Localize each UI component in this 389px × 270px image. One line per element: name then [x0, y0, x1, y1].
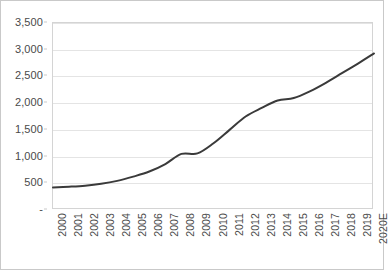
y-tick-label: 2,000 — [15, 96, 43, 108]
x-tick-label: 2003 — [104, 213, 116, 237]
x-tick-label: 2002 — [88, 213, 100, 237]
y-tick-label: 2,500 — [15, 69, 43, 81]
x-tick-label: 2019 — [361, 213, 373, 237]
y-axis: -5001,0001,5002,0002,5003,0003,500 — [1, 22, 47, 209]
y-tick-label: 3,000 — [15, 43, 43, 55]
y-tick-label: 1,000 — [15, 150, 43, 162]
y-tick-mark — [44, 209, 47, 210]
x-tick-label: 2010 — [217, 213, 229, 237]
line-series — [53, 23, 374, 210]
x-tick-label: 2001 — [72, 213, 84, 237]
plot-area — [52, 22, 373, 209]
x-tick-label: 2008 — [184, 213, 196, 237]
y-tick-mark — [44, 102, 47, 103]
x-tick-label: 2004 — [120, 213, 132, 237]
x-tick-label: 2009 — [200, 213, 212, 237]
x-tick-label: 2017 — [329, 213, 341, 237]
y-tick-mark — [44, 182, 47, 183]
x-tick-label: 2005 — [136, 213, 148, 237]
x-tick-label: 2011 — [233, 213, 245, 236]
x-tick-label: 2000 — [56, 213, 68, 237]
x-axis: 2000200120022003200420052006200720082009… — [52, 211, 373, 267]
x-tick-label: 2020E — [377, 213, 389, 244]
x-tick-label: 2018 — [345, 213, 357, 237]
series-line-path — [53, 53, 374, 187]
x-tick-label: 2013 — [265, 213, 277, 237]
x-tick-label: 2006 — [152, 213, 164, 237]
y-tick-mark — [44, 22, 47, 23]
y-tick-label: 3,500 — [15, 16, 43, 28]
x-tick-label: 2012 — [249, 213, 261, 237]
x-tick-label: 2015 — [297, 213, 309, 237]
y-tick-mark — [44, 128, 47, 129]
x-tick-label: 2007 — [168, 213, 180, 237]
y-tick-mark — [44, 48, 47, 49]
x-tick-label: 2014 — [281, 213, 293, 237]
y-tick-label: 500 — [24, 176, 43, 188]
y-tick-label: 1,500 — [15, 123, 43, 135]
y-tick-mark — [44, 155, 47, 156]
y-tick-label: - — [39, 203, 43, 215]
x-tick-label: 2016 — [313, 213, 325, 237]
y-tick-mark — [44, 75, 47, 76]
